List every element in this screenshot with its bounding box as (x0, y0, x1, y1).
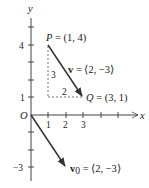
point-p-label: P = (1, 4) (45, 32, 87, 44)
vector-diagram: y x O 4 1 −3 1 2 3 3 2 P = (1, 4) Q = (3… (0, 0, 149, 188)
x-tick-3: 3 (81, 120, 86, 130)
y-tick-neg3: −3 (13, 163, 23, 173)
diagram-svg: y x O 4 1 −3 1 2 3 3 2 P = (1, 4) Q = (3… (0, 0, 149, 188)
y-axis-label: y (27, 3, 33, 14)
y-tick-4: 4 (19, 41, 24, 51)
vector-v0-label: v0 = ⟨2, −3⟩ (70, 163, 121, 176)
origin-label: O (20, 110, 28, 121)
vertical-component-label: 3 (51, 70, 56, 80)
x-tick-2: 2 (63, 120, 68, 130)
x-tick-1: 1 (46, 120, 51, 130)
x-axis-label: x (139, 110, 145, 121)
y-tick-1: 1 (20, 93, 25, 103)
horizontal-component-label: 2 (62, 87, 67, 97)
vector-v-label: v = ⟨2, −3⟩ (68, 64, 114, 75)
point-q-label: Q = (3, 1) (86, 92, 128, 104)
